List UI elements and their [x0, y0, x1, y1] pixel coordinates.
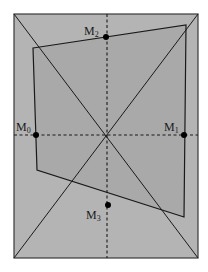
perspective-diagram: M0 M1 M2 M3	[0, 0, 208, 272]
point-m3	[105, 202, 111, 208]
point-m2	[103, 34, 109, 40]
point-m1	[181, 132, 187, 138]
point-m0	[33, 132, 39, 138]
